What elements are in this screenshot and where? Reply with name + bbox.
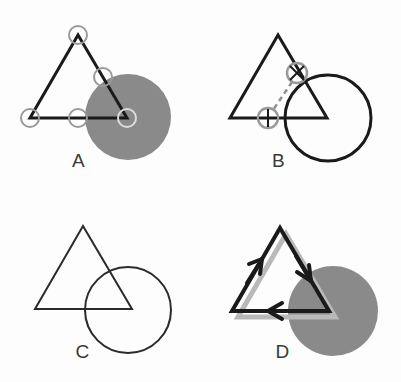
- panel-d: D: [200, 191, 401, 382]
- intersection-marker-lower-icon: [258, 108, 278, 128]
- panel-a-label: A: [0, 150, 179, 172]
- panel-a: A: [0, 0, 201, 191]
- panel-c-label: C: [0, 341, 183, 363]
- panel-b-label: B: [178, 150, 379, 172]
- panel-b: B: [200, 0, 401, 191]
- panel-d-label: D: [182, 341, 383, 363]
- shape-comparison-figure: A B C: [0, 0, 401, 382]
- dashed-connector: [273, 82, 292, 110]
- panel-c: C: [0, 191, 201, 382]
